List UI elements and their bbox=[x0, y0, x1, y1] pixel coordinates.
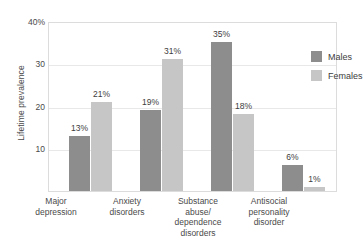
legend-label-males: Males bbox=[328, 52, 352, 62]
bar-value-label: 13% bbox=[71, 123, 88, 133]
x-category-label-antisocial-personality: Antisocial personality disorder bbox=[230, 196, 308, 228]
x-category-line: dependence bbox=[159, 217, 237, 228]
legend-swatch-males-icon bbox=[311, 51, 322, 62]
bar-value-label: 18% bbox=[235, 101, 252, 111]
bar-value-label: 21% bbox=[93, 89, 110, 99]
legend-label-females: Females bbox=[328, 71, 363, 81]
y-tick-label-20: 20 bbox=[15, 102, 45, 112]
y-tick-label-30: 30 bbox=[15, 59, 45, 69]
y-tick-label-10: 10 bbox=[15, 144, 45, 154]
legend-item-females[interactable]: Females bbox=[311, 68, 363, 83]
bar-value-label: 35% bbox=[213, 29, 230, 39]
x-category-line: disorder bbox=[230, 217, 308, 228]
y-tick-label-40: 40% bbox=[15, 17, 45, 27]
bar-females-major-depression[interactable]: 21% bbox=[91, 102, 112, 191]
x-category-line: depression bbox=[17, 207, 95, 218]
legend-swatch-females-icon bbox=[311, 70, 322, 81]
legend-item-males[interactable]: Males bbox=[311, 49, 363, 64]
bar-females-anxiety-disorders[interactable]: 31% bbox=[162, 59, 183, 191]
bar-males-major-depression[interactable]: 13% bbox=[69, 136, 90, 191]
cropped-caption-strip bbox=[55, 0, 305, 5]
plot-area: 13% 21% 19% 31% 35% 18% bbox=[48, 22, 337, 192]
x-category-line: Anxiety bbox=[88, 196, 166, 207]
x-category-label-major-depression: Major depression bbox=[17, 196, 95, 217]
x-category-label-substance-abuse: Substance abuse/ dependence disorders bbox=[159, 196, 237, 238]
x-category-line: abuse/ bbox=[159, 207, 237, 218]
bar-group-anxiety-disorders: 19% 31% bbox=[128, 23, 196, 191]
x-category-line: personality bbox=[230, 207, 308, 218]
bar-value-label: 6% bbox=[286, 152, 298, 162]
legend: Males Females bbox=[311, 49, 363, 87]
x-category-line: Major bbox=[17, 196, 95, 207]
x-category-line: Antisocial bbox=[230, 196, 308, 207]
x-category-line: disorders bbox=[88, 207, 166, 218]
bar-group-major-depression: 13% 21% bbox=[57, 23, 125, 191]
bar-value-label: 31% bbox=[164, 46, 181, 56]
x-category-line: Substance bbox=[159, 196, 237, 207]
bar-males-substance-abuse[interactable]: 35% bbox=[211, 42, 232, 191]
bar-group-substance-abuse: 35% 18% bbox=[199, 23, 267, 191]
bar-females-antisocial-personality[interactable]: 1% bbox=[304, 187, 325, 191]
bar-value-label: 19% bbox=[142, 97, 159, 107]
bar-females-substance-abuse[interactable]: 18% bbox=[233, 114, 254, 191]
x-category-label-anxiety-disorders: Anxiety disorders bbox=[88, 196, 166, 217]
bar-value-label: 1% bbox=[308, 174, 320, 184]
bar-males-antisocial-personality[interactable]: 6% bbox=[282, 165, 303, 191]
x-category-line: disorders bbox=[159, 228, 237, 239]
bar-males-anxiety-disorders[interactable]: 19% bbox=[140, 110, 161, 191]
